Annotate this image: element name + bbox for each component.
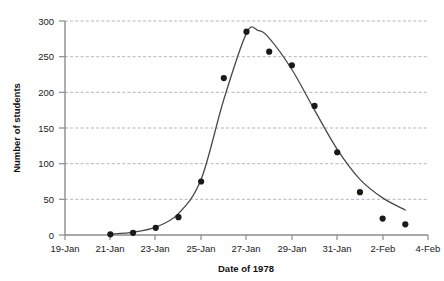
data-point bbox=[289, 62, 295, 68]
data-point bbox=[380, 215, 386, 221]
data-point bbox=[334, 149, 340, 155]
x-tick-label-31-jan: 31-Jan bbox=[322, 243, 351, 254]
x-tick-label-23-jan: 23-Jan bbox=[140, 243, 169, 254]
data-point bbox=[402, 221, 408, 227]
y-tick-label-50: 50 bbox=[43, 194, 54, 205]
x-tick-label-19-jan: 19-Jan bbox=[50, 243, 79, 254]
data-point bbox=[130, 230, 136, 236]
data-point bbox=[153, 225, 159, 231]
y-tick-label-250: 250 bbox=[38, 51, 54, 62]
fitted-curve-line bbox=[110, 27, 405, 234]
x-tick-label-25-jan: 25-Jan bbox=[186, 243, 215, 254]
x-tick-label-27-jan: 27-Jan bbox=[231, 243, 260, 254]
data-point bbox=[221, 75, 227, 81]
x-tick-labels: 19-Jan 21-Jan 23-Jan 25-Jan 27-Jan 29-Ja… bbox=[50, 243, 440, 254]
scatter-chart-svg: 300 250 200 150 100 50 0 19-Jan 21-Jan 2… bbox=[0, 0, 444, 281]
data-point bbox=[107, 231, 113, 237]
x-axis-title: Date of 1978 bbox=[218, 263, 274, 274]
x-tick-label-29-jan: 29-Jan bbox=[277, 243, 306, 254]
data-point bbox=[198, 178, 204, 184]
y-tick-labels: 300 250 200 150 100 50 0 bbox=[38, 16, 54, 241]
y-axis-ticks bbox=[59, 21, 65, 235]
y-axis-title: Number of students bbox=[11, 83, 22, 173]
y-tick-label-200: 200 bbox=[38, 87, 54, 98]
data-point bbox=[266, 49, 272, 55]
y-tick-label-0: 0 bbox=[49, 230, 54, 241]
y-tick-label-100: 100 bbox=[38, 158, 54, 169]
x-axis-ticks bbox=[65, 235, 428, 240]
x-tick-label-4-feb: 4-Feb bbox=[416, 243, 441, 254]
data-point bbox=[175, 214, 181, 220]
data-point bbox=[357, 189, 363, 195]
chart-container: 300 250 200 150 100 50 0 19-Jan 21-Jan 2… bbox=[0, 0, 444, 281]
gridlines bbox=[65, 21, 428, 199]
data-point-markers bbox=[107, 29, 408, 238]
x-tick-label-21-jan: 21-Jan bbox=[95, 243, 124, 254]
data-point bbox=[311, 103, 317, 109]
y-tick-label-300: 300 bbox=[38, 16, 54, 27]
x-tick-label-2-feb: 2-Feb bbox=[371, 243, 396, 254]
data-point bbox=[243, 29, 249, 35]
y-tick-label-150: 150 bbox=[38, 123, 54, 134]
